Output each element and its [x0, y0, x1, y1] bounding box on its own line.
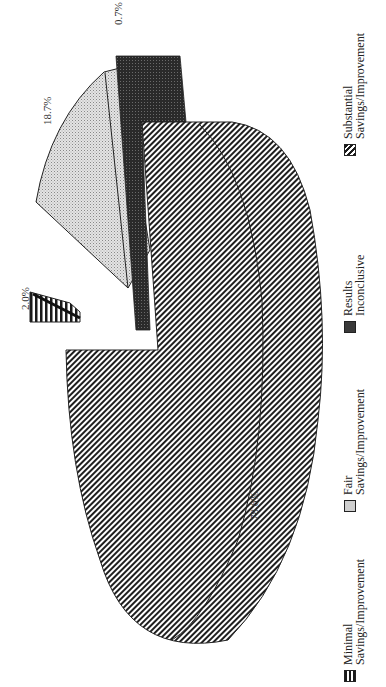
legend-item-fair: Fair Savings/Improvement	[342, 389, 366, 512]
legend-fair-line2: Savings/Improvement	[354, 389, 366, 495]
legend-item-inconclusive: Results Inconclusive	[342, 255, 366, 333]
pie-chart	[0, 0, 386, 687]
legend-swatch-fair	[344, 500, 356, 512]
slice-minimal	[30, 292, 80, 322]
legend-swatch-inconclusive	[344, 321, 356, 333]
legend-substantial-line2: Savings/Improvement	[354, 33, 366, 139]
legend-inconclusive-line1: Results Inconclusive	[342, 255, 366, 316]
legend-swatch-minimal	[344, 670, 356, 682]
label-inconclusive: 0.7%	[112, 2, 124, 25]
legend-item-substantial: Substantial Savings/Improvement	[342, 33, 366, 156]
legend-item-minimal: Minimal Savings/Improvement	[342, 559, 366, 682]
legend-swatch-substantial	[344, 144, 356, 156]
label-fair: 18.7%	[41, 97, 53, 125]
label-minimal: 2.0%	[19, 287, 31, 310]
legend-minimal-line2: Savings/Improvement	[354, 559, 366, 665]
label-substantial: 78.6%	[248, 492, 260, 520]
